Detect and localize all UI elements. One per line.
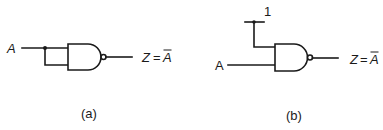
panel-b-output-lhs: Z [349,52,359,67]
panel-b: 1 A Z = A (b) [215,4,379,123]
panel-a-output-eq: = [153,50,161,65]
panel-a: A Z = A (a) [6,41,172,121]
panel-a-caption: (a) [81,106,97,121]
panel-b-output-eq: = [360,52,368,67]
panel-b-constant-label: 1 [264,4,271,19]
panel-b-output-label: Z = A [349,52,379,67]
panel-a-tied-input-wire [45,48,68,65]
panel-a-input-label: A [6,41,16,56]
panel-a-output-rhs: A [162,50,172,65]
panel-a-nand-gate-icon [68,44,101,70]
panel-a-output-label: Z = A [141,50,172,65]
panel-b-output-rhs: A [369,52,379,67]
panel-b-nand-gate-icon [275,44,308,71]
panel-b-caption: (b) [286,108,302,123]
nand-inverter-diagram: A Z = A (a) 1 A [0,0,383,130]
panel-b-constant-input-wire [254,22,275,47]
panel-b-input-label: A [215,58,224,73]
panel-a-output-lhs: Z [141,50,151,65]
